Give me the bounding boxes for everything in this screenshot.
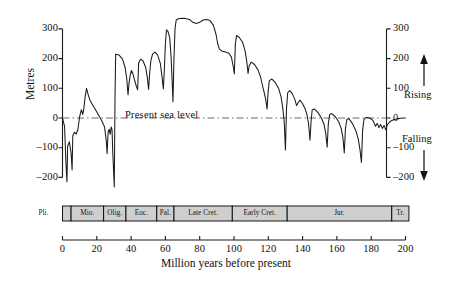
- y-tick-label-right: –100: [393, 142, 414, 153]
- x-axis: [63, 236, 406, 240]
- y-tick-label-right: 200: [393, 53, 409, 64]
- period-label-jur: Jur.: [287, 210, 392, 217]
- y-tick-label-right: 0: [393, 113, 398, 124]
- x-tick-label: 200: [386, 244, 426, 255]
- y-tick-label: 200: [20, 53, 58, 64]
- y-tick-label-right: –200: [393, 172, 414, 183]
- x-axis-title: Million years before present: [0, 258, 452, 270]
- present-sea-level-label: Present sea level: [125, 110, 198, 121]
- period-label-eoc: Eoc.: [126, 210, 157, 217]
- sea-level-chart-figure: Metres Million years before present Pres…: [0, 0, 452, 287]
- y-tick-label: 300: [20, 23, 58, 34]
- period-label-early-cret: Early Cret.: [232, 210, 287, 217]
- period-label-tr: Tr.: [392, 210, 409, 217]
- y-tick-label: –200: [20, 172, 58, 183]
- left-y-axis: [59, 29, 63, 178]
- falling-arrow-icon: [420, 150, 428, 181]
- y-tick-label: 100: [20, 83, 58, 94]
- period-label-pal: Pal.: [157, 210, 174, 217]
- period-label-olig: Olig.: [104, 210, 126, 217]
- period-cell: [63, 206, 72, 221]
- y-tick-label: –100: [20, 142, 58, 153]
- period-label-late-cret: Late Cret.: [174, 210, 232, 217]
- right-y-axis: [387, 29, 391, 178]
- period-label-pliocene: Pli.: [33, 210, 55, 217]
- period-label-mio: Mio.: [71, 210, 104, 217]
- rising-arrow-icon: [420, 54, 428, 86]
- y-tick-label-right: 300: [393, 23, 409, 34]
- y-tick-label-right: 100: [393, 83, 409, 94]
- sea-level-curve: [63, 18, 406, 187]
- y-tick-label: 0: [20, 113, 58, 124]
